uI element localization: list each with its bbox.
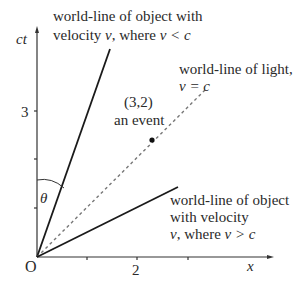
y-axis-arrow-icon: [35, 26, 39, 33]
fast-worldline-label: world-line of object: [170, 192, 290, 208]
event-coords: (3,2): [124, 94, 153, 111]
light-worldline-label-2: v = c: [179, 78, 210, 94]
event-label: an event: [114, 112, 165, 128]
x-axis-label: x: [246, 258, 254, 274]
light-worldline-label: world-line of light,: [179, 61, 293, 77]
x-tick-label-2: 2: [132, 262, 140, 278]
theta-label: θ: [40, 190, 48, 206]
x-axis-arrow-icon: [267, 255, 274, 259]
origin-label: O: [25, 258, 37, 275]
fast-worldline-label-3: v, where v > c: [170, 226, 256, 242]
theta-arc: [37, 179, 64, 188]
y-axis-label: ct: [16, 31, 28, 47]
event-dot: [149, 137, 154, 142]
spacetime-diagram: ct x O 3 2 θ (3,2) an event world-line o…: [0, 0, 308, 290]
y-tick-label-3: 3: [21, 104, 29, 120]
slow-worldline-label-2: velocity v, where v < c: [53, 27, 191, 43]
fast-worldline-label-2: with velocity: [170, 209, 249, 225]
slow-worldline-label: world-line of object with: [53, 8, 203, 24]
